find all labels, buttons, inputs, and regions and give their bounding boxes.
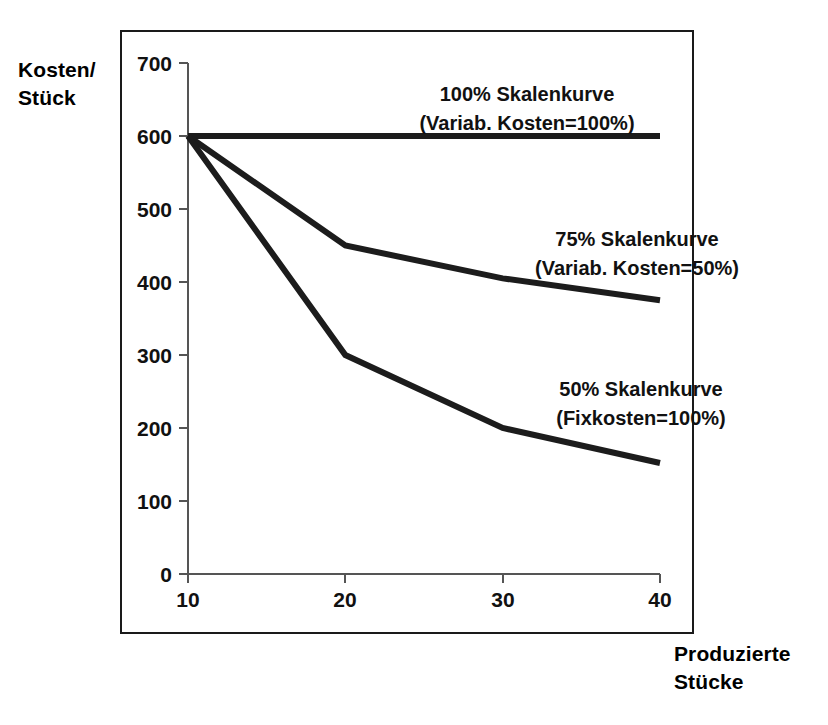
x-tick-label-10: 10 — [176, 588, 199, 611]
scale-curve-chart-figure: Kosten/ Stück Produzierte Stücke 700 600… — [0, 0, 828, 725]
y-tick-label-300: 300 — [137, 344, 172, 367]
x-tick-label-20: 20 — [333, 588, 356, 611]
y-tick-label-600: 600 — [137, 125, 172, 148]
y-tick-label-200: 200 — [137, 417, 172, 440]
x-tick-label-30: 30 — [491, 588, 514, 611]
y-tick-label-700: 700 — [137, 52, 172, 75]
y-tick-label-400: 400 — [137, 271, 172, 294]
y-tick-label-0: 0 — [160, 563, 172, 586]
annotation-50-percent: 50% Skalenkurve (Fixkosten=100%) — [556, 378, 726, 429]
annotation-50-line1: 50% Skalenkurve — [559, 378, 722, 400]
annotation-100-line2: (Variab. Kosten=100%) — [419, 112, 634, 134]
chart-plot-area: 700 600 500 400 300 200 100 0 10 20 30 4… — [0, 0, 828, 725]
annotation-100-line1: 100% Skalenkurve — [440, 83, 615, 105]
annotation-75-line2: (Variab. Kosten=50%) — [535, 257, 739, 279]
y-tick-label-500: 500 — [137, 198, 172, 221]
annotation-100-percent: 100% Skalenkurve (Variab. Kosten=100%) — [419, 83, 634, 134]
annotation-50-line2: (Fixkosten=100%) — [556, 407, 726, 429]
annotation-75-line1: 75% Skalenkurve — [555, 228, 718, 250]
y-tick-label-100: 100 — [137, 490, 172, 513]
annotation-75-percent: 75% Skalenkurve (Variab. Kosten=50%) — [535, 228, 739, 279]
x-tick-marks — [188, 574, 660, 583]
y-tick-marks — [179, 63, 188, 574]
x-tick-label-40: 40 — [648, 588, 671, 611]
